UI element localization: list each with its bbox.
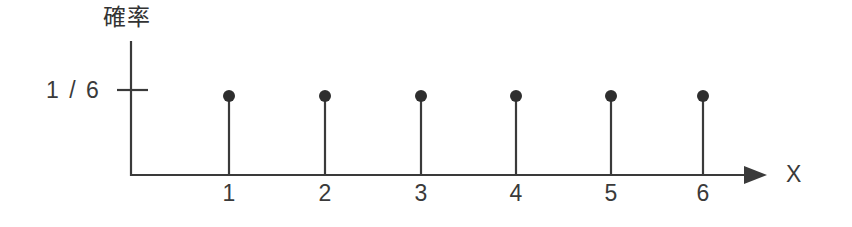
x-axis-tick-label-1: 1 bbox=[223, 182, 236, 205]
data-point-4 bbox=[510, 90, 522, 102]
x-axis-title: X bbox=[786, 163, 801, 186]
probability-stem-plot-figure: 確率 1 / 6 X 1 2 3 4 5 6 bbox=[0, 0, 852, 227]
data-point-3 bbox=[415, 90, 427, 102]
y-axis-title: 確率 bbox=[103, 6, 151, 29]
x-axis-tick-label-2: 2 bbox=[319, 182, 332, 205]
data-point-2 bbox=[319, 90, 331, 102]
x-axis-tick-label-6: 6 bbox=[697, 182, 710, 205]
x-axis-arrowhead-icon bbox=[744, 166, 767, 184]
data-point-6 bbox=[697, 90, 709, 102]
y-axis-tick-label: 1 / 6 bbox=[46, 79, 101, 102]
data-point-1 bbox=[223, 90, 235, 102]
x-axis-tick-label-3: 3 bbox=[415, 182, 428, 205]
x-axis-tick-label-4: 4 bbox=[510, 182, 523, 205]
x-axis-tick-label-5: 5 bbox=[605, 182, 618, 205]
data-point-5 bbox=[605, 90, 617, 102]
